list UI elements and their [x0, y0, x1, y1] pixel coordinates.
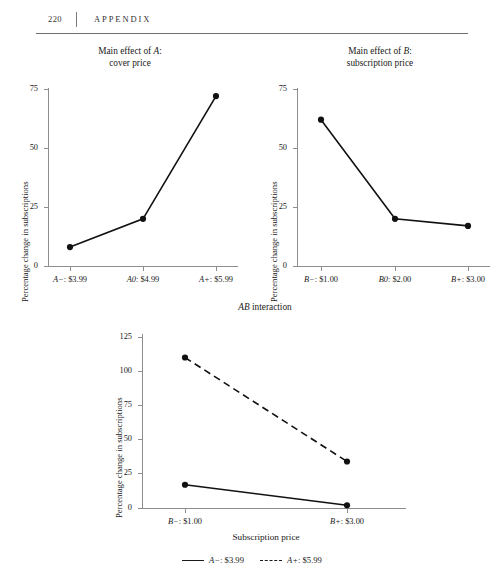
legend-item-a-minus: A−: $3.99: [182, 555, 244, 565]
chart-a-series-line: [0, 40, 250, 290]
legend-label-a-plus: A+: $5.99: [287, 555, 322, 565]
chart-b-series-line: [255, 40, 500, 290]
legend-label-a-minus: A−: $3.99: [209, 555, 244, 565]
chart-ab-series-lines: [100, 300, 430, 582]
chart-ab-plot-area: 0 25 50 75 100 125 B−: $1.00 B+: $3.00 S…: [100, 300, 430, 582]
legend-solid-line-icon: [182, 557, 204, 564]
running-head-divider: [76, 12, 77, 27]
chart-main-effect-a: Main effect of A: cover price Percentage…: [0, 40, 250, 290]
chart-ab-legend: A−: $3.99 A+: $5.99: [182, 555, 322, 565]
page-number: 220: [36, 14, 62, 24]
running-head-rule: [36, 33, 468, 34]
legend-item-a-plus: A+: $5.99: [260, 555, 322, 565]
chart-ab-interaction: AB interaction Percentage change in subs…: [100, 300, 430, 582]
legend-dashed-line-icon: [260, 557, 282, 564]
running-head: 220 APPENDIX: [0, 12, 500, 38]
running-head-title: APPENDIX: [94, 14, 151, 24]
chart-main-effect-b: Main effect of B: subscription price Per…: [255, 40, 500, 290]
chart-a-plot-area: 0 25 50 75 A−: $3.99 A0: $4.99 A+: $5.99: [0, 40, 250, 290]
chart-b-plot-area: 0 25 50 75 B−: $1.00 B0: $2.00 B+: $3.00: [255, 40, 500, 290]
appendix-page: 220 APPENDIX Main effect of A: cover pri…: [0, 0, 500, 582]
